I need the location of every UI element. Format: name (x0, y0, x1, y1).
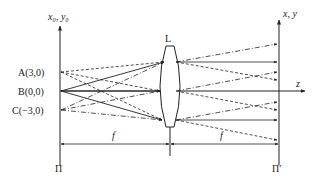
image-plane-axis-label: x, y (282, 8, 297, 19)
object-plane-label: Π (55, 163, 62, 174)
point-a-label: A(3,0) (18, 67, 44, 79)
point-b-label: B(0,0) (18, 86, 44, 98)
image-plane-label: Π′ (272, 163, 281, 174)
focal-right-label: f (220, 130, 224, 141)
lens-label: L (165, 33, 171, 44)
point-c-label: C(−3,0) (12, 105, 43, 117)
optical-axis-label: z (295, 78, 300, 89)
rays-right-bottom (176, 102, 277, 140)
object-plane-axis-label: x₀, y₀ (47, 11, 69, 22)
optical-diagram: x₀, y₀ x, y z L Π Π′ f f A(3,0) B(0,0) C… (0, 0, 312, 182)
focal-left-label: f (112, 130, 116, 141)
